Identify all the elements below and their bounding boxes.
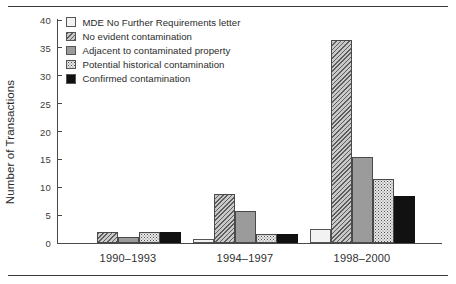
y-axis-tick-label: 30 [40, 70, 51, 81]
bar [214, 194, 235, 243]
legend-item: Confirmed contamination [66, 72, 240, 86]
bar [277, 234, 298, 243]
y-axis-tick-label: 35 [40, 42, 51, 53]
y-axis-tick-label: 25 [40, 98, 51, 109]
y-axis-title: Number of Transactions [0, 0, 22, 284]
y-axis-tick-label: 10 [40, 182, 51, 193]
x-axis-tick-label: 1990–1993 [100, 252, 157, 264]
legend-swatch-icon [66, 32, 76, 42]
bar [373, 179, 394, 243]
y-axis-tick: 5 [46, 210, 58, 221]
legend-item-label: Potential historical contamination [83, 59, 225, 70]
legend-item: Adjacent to contaminated property [66, 43, 240, 57]
chart-legend: MDE No Further Requirements letterNo evi… [66, 15, 240, 86]
bar [331, 40, 352, 243]
y-axis-tick-mark [58, 103, 62, 104]
y-axis-tick-mark [58, 159, 62, 160]
y-axis-tick-mark [58, 75, 62, 76]
y-axis-tick: 15 [40, 154, 58, 165]
bar [310, 229, 331, 243]
bar-group [307, 20, 417, 243]
y-axis-tick-mark [58, 47, 62, 48]
y-axis-tick: 30 [40, 70, 58, 81]
y-axis-tick-mark [58, 20, 62, 21]
y-axis-tick-mark [58, 243, 62, 244]
y-axis-tick-label: 40 [40, 15, 51, 26]
bar [139, 232, 160, 243]
y-axis-tick: 0 [46, 238, 58, 249]
bar [193, 239, 214, 243]
legend-swatch-icon [66, 17, 76, 27]
bar [97, 232, 118, 243]
bar [352, 157, 373, 243]
y-axis-tick: 35 [40, 42, 58, 53]
y-axis-tick-label: 0 [46, 238, 51, 249]
legend-swatch-icon [66, 74, 76, 84]
y-axis-tick-mark [58, 187, 62, 188]
y-axis-tick-mark [58, 131, 62, 132]
legend-item: Potential historical contamination [66, 58, 240, 72]
y-axis-title-label: Number of Transactions [4, 80, 16, 204]
y-axis-tick: 10 [40, 182, 58, 193]
bar [160, 232, 181, 243]
bar [235, 211, 256, 243]
legend-swatch-icon [66, 46, 76, 56]
x-axis-line [57, 243, 442, 244]
y-axis-tick-label: 20 [40, 126, 51, 137]
y-axis-tick-mark [58, 215, 62, 216]
legend-swatch-icon [66, 60, 76, 70]
legend-item-label: No evident contamination [83, 31, 192, 42]
y-axis-tick-label: 5 [46, 210, 51, 221]
x-axis-tick-label: 1998–2000 [334, 252, 391, 264]
legend-item-label: Adjacent to contaminated property [83, 45, 231, 56]
bar [394, 196, 415, 243]
bottom-rule [8, 275, 448, 276]
legend-item: MDE No Further Requirements letter [66, 15, 240, 29]
bar [256, 234, 277, 243]
y-axis-tick: 25 [40, 98, 58, 109]
y-axis-tick-label: 15 [40, 154, 51, 165]
legend-item-label: MDE No Further Requirements letter [83, 17, 241, 28]
chart-figure: Number of Transactions 0510152025303540 … [0, 0, 456, 284]
y-axis-tick: 20 [40, 126, 58, 137]
legend-item: No evident contamination [66, 29, 240, 43]
x-axis-tick-label: 1994–1997 [217, 252, 274, 264]
y-axis-tick: 40 [40, 15, 58, 26]
bar [118, 237, 139, 243]
top-rule [8, 6, 448, 7]
legend-item-label: Confirmed contamination [83, 73, 191, 84]
